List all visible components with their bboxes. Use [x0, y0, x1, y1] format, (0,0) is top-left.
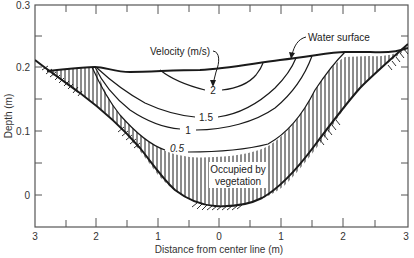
water-surface-annotation: Water surface: [308, 32, 370, 43]
vegetation-annotation-line2: vegetation: [215, 176, 261, 187]
x-axis-tick-labels: 3 2 1 0 1 2 3: [32, 231, 409, 242]
x-axis-title: Distance from center line (m): [155, 244, 283, 255]
y-tick-0-3: 0.3: [16, 0, 30, 11]
contour-label-1: 1: [185, 125, 191, 136]
contour-2: [160, 70, 205, 90]
x-tick-0: 0: [216, 231, 222, 242]
y-axis-title: Depth (m): [3, 94, 14, 138]
vegetation-annotation-line1: Occupied by: [210, 164, 266, 175]
x-tick-right-3: 3: [403, 231, 409, 242]
velocity-leader-arrow: [213, 51, 219, 84]
velocity-annotation: Velocity (m/s): [150, 46, 210, 57]
contour-label-0-5: 0.5: [170, 143, 184, 154]
x-tick-right-2: 2: [340, 231, 346, 242]
x-tick-left-1: 1: [155, 231, 161, 242]
water-surface-leader-arrow: [292, 37, 306, 55]
x-tick-left-3: 3: [32, 231, 38, 242]
y-axis-ticks-right: [401, 36, 408, 195]
contour-label-2: 2: [210, 85, 216, 96]
x-axis-ticks-top: [66, 5, 375, 14]
x-tick-right-1: 1: [278, 231, 284, 242]
y-tick-0: 0: [24, 190, 30, 201]
channel-velocity-diagram: 0.3 0.2 0.1 0 Depth (m) 3 2 1 0 1 2 3 Di…: [0, 0, 414, 258]
y-tick-0-2: 0.2: [16, 62, 30, 73]
y-axis-tick-labels: 0.3 0.2 0.1 0: [16, 0, 30, 201]
x-tick-left-2: 2: [93, 231, 99, 242]
contour-label-1-5: 1.5: [199, 112, 213, 123]
y-tick-0-1: 0.1: [16, 126, 30, 137]
x-axis-ticks-bottom: [66, 218, 375, 227]
